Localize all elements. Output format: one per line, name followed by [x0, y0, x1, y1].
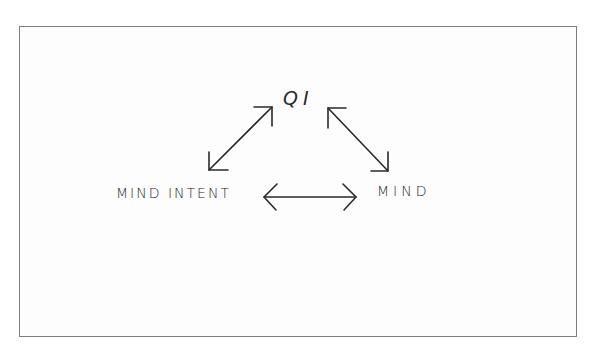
node-label-mind-intent: MIND INTENT — [116, 185, 231, 201]
node-label-qi: QI — [283, 87, 314, 109]
arrow-qi-mind — [328, 108, 388, 171]
arrow-mind-intent-mind — [264, 184, 356, 210]
arrow-mind-intent-qi — [209, 107, 272, 170]
diagram-canvas — [0, 0, 590, 358]
node-label-mind: MIND — [377, 183, 430, 199]
